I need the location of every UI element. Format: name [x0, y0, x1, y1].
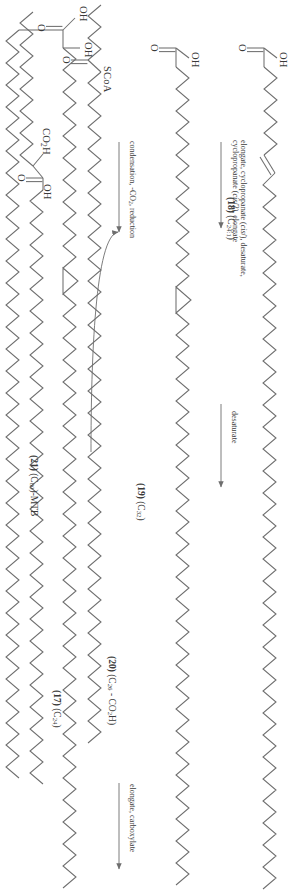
reagent-label-elongate-carboxylate: elongate, carboxylate — [128, 784, 136, 852]
reagent-label-desaturate: desaturate — [230, 411, 238, 443]
compound-label-mtb: (21) (C80)-MTB — [29, 455, 39, 516]
atom-label-c20-acid-oh: OH — [42, 184, 53, 200]
reaction-scheme-stage: OH O OH O SCoA O CO2H OH O OH OH O (18) … — [0, 0, 291, 896]
arrow-condensation-feeder — [91, 232, 118, 452]
compound-number-mtb: (21) — [29, 455, 39, 471]
compound-formula-mid-c20: - CO — [107, 691, 117, 712]
compound-formula-sub-c19: 32 — [136, 511, 143, 518]
atom-label-c18-o: O — [237, 44, 248, 52]
c20-co2h-tail: H — [41, 147, 52, 155]
compound-formula-suffix-mtb: )-MTB — [29, 490, 39, 517]
compound-formula-prefix-c20: (C — [107, 674, 117, 684]
compound-label-c20: (20) (C26 - CO2H) — [107, 656, 117, 725]
reagent-line-1: elongate, cyclopropanate (cis/), desatur… — [239, 140, 247, 277]
compound-label-c19: (19) (C32) — [136, 483, 146, 521]
reagent-label-elongate-cyclopropanate: elongate, cyclopropanate (cis/), desatur… — [231, 140, 247, 277]
atom-label-c17-scoa: SCoA — [102, 66, 113, 92]
reagent-l1-italic: cis — [239, 225, 248, 234]
atom-label-mtb-beta-oh: OH — [83, 42, 94, 58]
reagent-line-2: cyclopropanate (cis/2), elongate — [231, 140, 239, 277]
reagent-l2-b: /2), elongate — [231, 202, 240, 242]
compound-formula-suffix-c17: ) — [52, 725, 62, 728]
compound-formula-sub-c20: 26 — [107, 684, 114, 691]
atom-label-mtb-acid-oh: OH — [78, 6, 89, 22]
atom-label-c17-o: O — [61, 56, 72, 64]
reagent-label-condensation: condensation, -CO2, reduction — [128, 141, 136, 238]
compound-number-c17: (17) — [52, 690, 62, 706]
c20-co2h-main: CO — [41, 128, 52, 143]
reagent-l1-b: /), desaturate, — [239, 234, 248, 277]
compound-formula-suffix-c20: H) — [107, 715, 117, 725]
compound-number-c19: (19) — [136, 483, 146, 499]
reagent-cond-b: , reduction — [128, 204, 137, 238]
atom-label-c20-o: O — [16, 174, 27, 182]
compound-formula-sub-mtb: 80 — [29, 483, 36, 490]
atom-label-c18-oh: OH — [278, 52, 289, 68]
reagent-l1-a: elongate, cyclopropanate ( — [239, 140, 248, 225]
atom-label-c19-oh: OH — [190, 52, 201, 68]
reaction-scheme-canvas: OH O OH O SCoA O CO2H OH O OH OH O (18) … — [0, 0, 291, 896]
compound-formula-suffix-c19: ) — [136, 518, 146, 521]
atom-label-c19-o: O — [149, 44, 160, 52]
atom-label-mtb-o: O — [36, 24, 47, 32]
reagent-cond-a: condensation, -CO — [128, 141, 137, 201]
compound-label-c17: (17) (C24) — [52, 690, 62, 728]
compound-formula-prefix-c17: (C — [52, 708, 62, 718]
compound-formula-prefix-mtb: (C — [29, 473, 39, 483]
compound-formula-prefix-c19: (C — [136, 501, 146, 511]
compound-number-c20: (20) — [107, 656, 117, 672]
compound-formula-sub-c17: 24 — [52, 718, 59, 725]
atom-label-c20-co2h: CO2H — [41, 128, 52, 155]
reagent-l2-a: cyclopropanate ( — [231, 140, 240, 194]
